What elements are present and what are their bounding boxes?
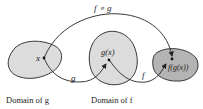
- composition-diagram: f ∘ g x g(x) f(g(x)) g f Domain of g Dom…: [0, 0, 203, 109]
- caption-domain-g: Domain of g: [6, 95, 50, 105]
- point-fgx: [171, 58, 174, 61]
- point-gx: [108, 59, 111, 62]
- point-x-label: x: [35, 53, 40, 63]
- point-fgx-label: f(g(x)): [168, 63, 189, 72]
- top-arrow-label: f ∘ g: [94, 3, 112, 13]
- point-x: [43, 57, 46, 60]
- caption-domain-f: Domain of f: [91, 95, 133, 105]
- point-gx-label: g(x): [101, 47, 115, 57]
- arrow-f-label: f: [142, 70, 146, 80]
- arrow-g-label: g: [71, 73, 76, 83]
